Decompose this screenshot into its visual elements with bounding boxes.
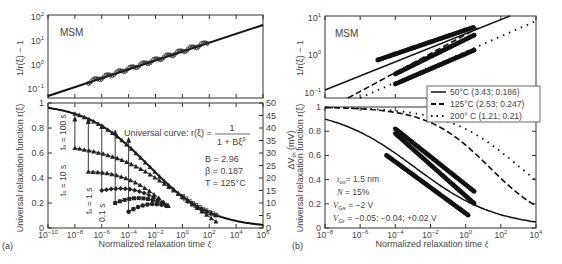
svg-text:50: 50 (266, 98, 276, 108)
svg-text:5: 5 (266, 211, 271, 221)
svg-text:0.6: 0.6 (308, 150, 321, 160)
y2-tick-labels: 05101520253035404550 (259, 98, 276, 233)
ts-1-label: ts = 1 s (84, 188, 94, 214)
legend-200C: 200° C (1.21; 0.21) (450, 111, 522, 121)
svg-text:40: 40 (266, 123, 276, 133)
svg-text:1: 1 (316, 102, 321, 112)
svg-text:104: 104 (530, 229, 543, 240)
formula-denominator: 1 + Bξβ (217, 136, 246, 147)
panel-b-bottom: 10−810−610−410−2100102104 00.20.40.60.81… (292, 86, 543, 251)
svg-text:101: 101 (31, 35, 45, 46)
svg-text:102: 102 (494, 229, 507, 240)
svg-text:0.8: 0.8 (31, 123, 44, 133)
param-T: T = 125°C (205, 178, 246, 188)
svg-text:0.8: 0.8 (308, 126, 321, 136)
y-axis-label-a-top: 1/r(ξ) − 1 (15, 40, 25, 76)
x-axis-label-a: Normalized relaxation time ξ (99, 239, 212, 249)
x-axis-label-b: Normalized relaxation time ξ (376, 239, 489, 249)
msm-label: MSM (60, 27, 83, 38)
svg-text:35: 35 (266, 136, 276, 146)
svg-text:0.4: 0.4 (31, 173, 44, 183)
y-axis-label-a-bottom: Universal relaxation function r(ξ) (15, 104, 25, 233)
data-markers (375, 25, 476, 86)
vgs-annotation: VGs = −2 V (333, 200, 374, 211)
param-beta: β = 0.187 (205, 166, 243, 176)
svg-text:102: 102 (31, 11, 45, 22)
svg-text:0.2: 0.2 (31, 198, 44, 208)
svg-text:10−8: 10−8 (67, 229, 84, 240)
svg-text:100: 100 (308, 49, 322, 60)
svg-text:20: 20 (266, 173, 276, 183)
svg-text:45: 45 (266, 111, 276, 121)
legend-125C: 125°C (2.53; 0.247) (450, 99, 524, 109)
svg-text:0.2: 0.2 (308, 199, 321, 209)
formula-numerator: 1 (229, 123, 234, 133)
ts-10-label: ts = 10 s (58, 165, 68, 196)
svg-text:104: 104 (230, 229, 243, 240)
svg-text:101: 101 (308, 12, 322, 23)
svg-text:1: 1 (39, 98, 44, 108)
panel-a-top: 102 101 100 10−1 MSM 1/r(ξ) − 1 (15, 11, 263, 98)
svg-text:10−1: 10−1 (27, 83, 45, 94)
tox-annotation: tox= 1.5 nm (337, 174, 379, 185)
legend: 50°C (3.43; 0.186) 125°C (2.53; 0.247) 2… (427, 86, 540, 122)
N-annotation: N = 15% (336, 187, 370, 197)
legend-50C: 50°C (3.43; 0.186) (450, 87, 520, 97)
svg-text:30: 30 (266, 148, 276, 158)
panel-a-bottom: 10−1010−810−610−410−2100102104106 00.20.… (2, 98, 297, 251)
msm-label: MSM (335, 28, 358, 39)
panel-label-a: (a) (2, 241, 13, 251)
y-tick-labels: 00.20.40.60.81 (31, 98, 52, 233)
vgr-annotation: VGr = −0.05; −0.04; +0.02 V (333, 213, 437, 224)
ts-100-label: ts = 100 s (58, 114, 68, 150)
svg-text:25: 25 (266, 161, 276, 171)
svg-text:0: 0 (266, 223, 271, 233)
param-B: B = 2.96 (205, 154, 239, 164)
svg-text:100: 100 (31, 59, 45, 70)
svg-text:10−6: 10−6 (352, 229, 369, 240)
recovery-arrows (72, 116, 131, 212)
data-markers (384, 126, 476, 217)
y-tick-labels: 101 100 10−1 (304, 12, 322, 98)
svg-text:0.4: 0.4 (308, 175, 321, 185)
svg-text:10−1: 10−1 (304, 87, 322, 98)
y-axis-label-b-top: 1/r(ξ) − 1 (295, 40, 305, 76)
panel-label-b: (b) (292, 241, 303, 251)
figure: 102 101 100 10−1 MSM 1/r(ξ) − 1 10−1010−… (0, 0, 562, 264)
panel-b-top: 101 100 10−1 MSM 1/r(ξ) − 1 (295, 12, 536, 98)
svg-text:0: 0 (316, 223, 321, 233)
svg-text:10: 10 (266, 198, 276, 208)
universal-curve-label: Universal curve: r(ξ) = (124, 128, 212, 138)
y-axis-label-b-bottom: Universal relaxation function r(ξ) (295, 104, 305, 233)
svg-text:15: 15 (266, 186, 276, 196)
svg-text:0.6: 0.6 (31, 148, 44, 158)
svg-text:0: 0 (39, 223, 44, 233)
y-tick-labels: 102 101 100 10−1 (27, 11, 45, 94)
ts-01-label: 0.1 s (97, 204, 107, 222)
